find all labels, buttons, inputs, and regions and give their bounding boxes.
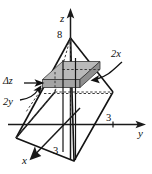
slab-width-x-label: 2x bbox=[111, 49, 121, 60]
slab-width-y-label: 2y bbox=[3, 97, 13, 108]
x-axis-label: x bbox=[22, 155, 27, 166]
slab-thickness-label: Δz bbox=[3, 76, 13, 86]
y-extent-tick-label: 3 bbox=[106, 113, 111, 124]
pyramid-edges bbox=[16, 38, 113, 161]
pyramid-base bbox=[16, 92, 113, 161]
y-axis-label: y bbox=[138, 128, 143, 139]
x-extent-tick-label: 3 bbox=[53, 146, 58, 157]
z-height-tick-label: 8 bbox=[57, 30, 62, 41]
cross-section-slab bbox=[43, 62, 101, 88]
figure-canvas bbox=[0, 0, 152, 174]
pyramid-cross-section-figure: z 8 y 3 x 3 2x Δz 2y bbox=[0, 0, 152, 174]
z-axis-label: z bbox=[60, 13, 64, 24]
